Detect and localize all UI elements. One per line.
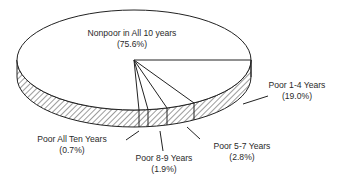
label-poor-8-9: Poor 8-9 Years (1.9%)	[122, 153, 206, 174]
label-poor-all-ten: Poor All Ten Years (0.7%)	[20, 134, 124, 155]
leader-poor-5-7	[187, 127, 200, 139]
label-poor-5-7: Poor 5-7 Years (2.8%)	[202, 141, 282, 162]
label-poor-1-4: Poor 1-4 Years (19.0%)	[254, 80, 340, 101]
label-nonpoor: Nonpoor in All 10 years (75.6%)	[66, 28, 198, 49]
leader-poor-8-9	[160, 131, 163, 151]
leader-poor-all	[126, 131, 139, 140]
